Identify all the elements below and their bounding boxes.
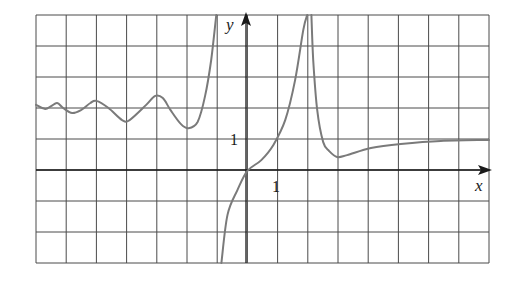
grid — [36, 15, 489, 263]
x-tick-label-1: 1 — [272, 178, 280, 195]
y-tick-label-1: 1 — [230, 131, 238, 148]
y-axis-label: y — [224, 15, 234, 34]
x-axis-label: x — [474, 176, 483, 195]
function-graph: y x 1 1 — [0, 0, 514, 281]
axes — [36, 12, 492, 263]
